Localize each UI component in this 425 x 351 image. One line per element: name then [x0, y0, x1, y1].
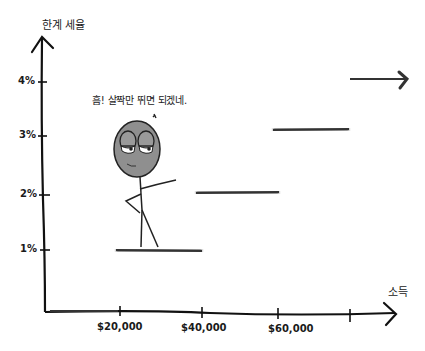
- y-tick-label-4: 4%: [18, 75, 35, 86]
- speech-annotation: 흠! 살짝만 뛰면 되겠네.: [92, 92, 187, 107]
- y-axis: [32, 37, 53, 312]
- y-axis-title: 한계 세율: [42, 16, 86, 32]
- step-1pct: [116, 250, 202, 251]
- step-3pct: [273, 129, 349, 130]
- x-tick-label-20000: $20,000: [97, 321, 143, 332]
- step-segments: [50, 72, 407, 311]
- head: [114, 121, 160, 177]
- x-axis-title: 소득: [388, 283, 408, 299]
- y-tick-label-1: 1%: [20, 243, 37, 254]
- y-tick-label-2: 2%: [20, 188, 37, 199]
- x-tick-label-60000: $60,000: [268, 323, 314, 334]
- stick-figure: [114, 113, 176, 247]
- chart-canvas: [0, 0, 425, 351]
- step-2pct: [196, 192, 279, 193]
- x-tick-label-40000: $40,000: [181, 322, 227, 333]
- step-0pct: [50, 310, 118, 311]
- y-tick-label-3: 3%: [19, 129, 36, 140]
- step-4pct-arrow: [350, 72, 407, 88]
